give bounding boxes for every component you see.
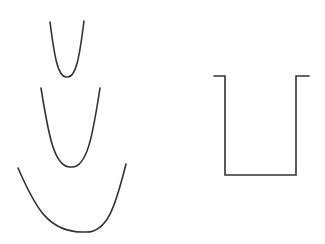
narrow-parabola-curve bbox=[50, 21, 84, 77]
potential-wells-figure bbox=[0, 0, 325, 244]
medium-parabola-curve bbox=[41, 88, 100, 167]
diagram-canvas bbox=[0, 0, 325, 244]
square-well-outline bbox=[214, 76, 309, 175]
wide-parabola-curve bbox=[18, 164, 126, 232]
